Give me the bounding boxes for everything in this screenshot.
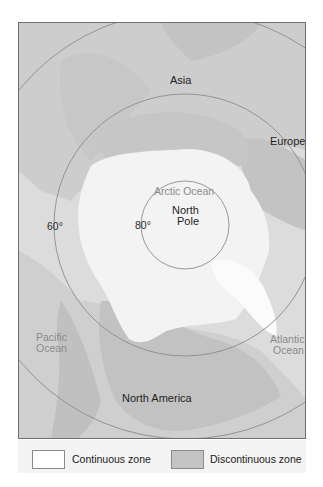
label-pole: Pole [177,216,199,227]
legend-swatch-continuous [32,450,65,469]
legend: Continuous zone Discontinuous zone [18,440,306,473]
label-arctic-ocean: Arctic Ocean [154,186,214,197]
legend-label-continuous: Continuous zone [72,454,151,465]
label-asia: Asia [170,75,191,86]
label-80-degrees: 80° [135,220,151,231]
legend-label-discontinuous: Discontinuous zone [210,454,302,465]
arctic-map: Asia Europe Arctic Ocean North Pole 80° … [18,22,306,439]
label-atlantic-ocean: Ocean [273,345,304,356]
legend-swatch-discontinuous [171,450,204,469]
label-europe: Europe [270,136,305,147]
label-north-america: North America [122,393,192,404]
label-pacific-ocean: Ocean [36,343,67,354]
label-60-degrees: 60° [47,221,63,232]
